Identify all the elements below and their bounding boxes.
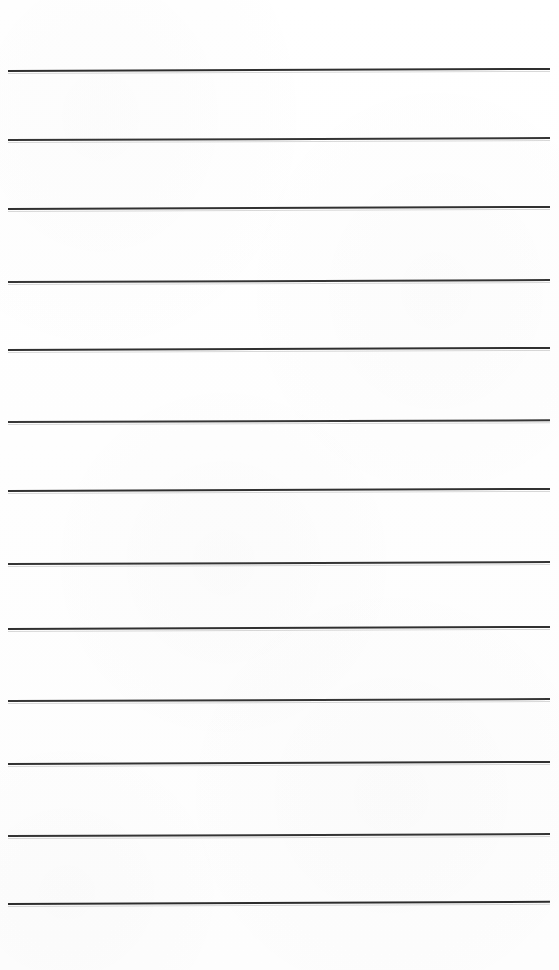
- writing-area[interactable]: [8, 0, 550, 970]
- paper-page: [0, 0, 559, 970]
